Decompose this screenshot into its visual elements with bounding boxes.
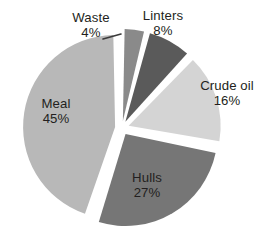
pie-chart-figure: Waste 4% Linters 8% Crude oil 16% Meal 4… <box>0 0 265 235</box>
pie-label-linters-name: Linters <box>132 8 194 23</box>
pie-label-linters: Linters 8% <box>132 8 194 38</box>
pie-label-waste-name: Waste <box>60 10 122 25</box>
pie-label-crude-oil: Crude oil 16% <box>190 78 264 108</box>
pie-label-hulls-name: Hulls <box>118 170 176 185</box>
pie-label-linters-value: 8% <box>132 23 194 38</box>
pie-label-crude-oil-value: 16% <box>190 93 264 108</box>
pie-label-meal-value: 45% <box>26 111 86 126</box>
pie-label-waste: Waste 4% <box>60 10 122 40</box>
pie-label-meal-name: Meal <box>26 96 86 111</box>
pie-label-hulls-value: 27% <box>118 185 176 200</box>
pie-label-hulls: Hulls 27% <box>118 170 176 200</box>
pie-label-meal: Meal 45% <box>26 96 86 126</box>
pie-label-crude-oil-name: Crude oil <box>190 78 264 93</box>
pie-label-waste-value: 4% <box>60 25 122 40</box>
